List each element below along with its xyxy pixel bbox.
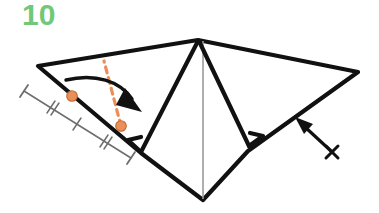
cross-mark-icon <box>326 146 338 158</box>
measure-cap-end <box>127 152 135 164</box>
paper-outline <box>38 40 358 200</box>
fold-direction-straight-arrow <box>295 117 338 158</box>
reference-dot-upper <box>67 91 78 102</box>
diagram-canvas: 10 <box>0 0 379 213</box>
paper-outline-group <box>38 40 358 200</box>
reference-dot-lower <box>116 121 127 132</box>
tick-single-2 <box>73 118 81 130</box>
tick-hash-double-1 <box>47 101 59 115</box>
origami-figure <box>0 0 379 213</box>
measure-cap-start <box>20 85 28 97</box>
